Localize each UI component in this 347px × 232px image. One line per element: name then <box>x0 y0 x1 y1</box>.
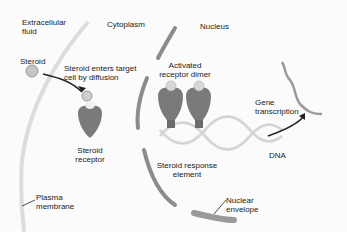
extracellular-line1: Extracellular <box>22 18 66 27</box>
envelope-line2: envelope <box>226 205 258 214</box>
steroid-molecule-icon <box>26 65 38 77</box>
receptor-line1: Steroid <box>74 146 106 155</box>
envelope-line1: Nuclear <box>226 196 258 205</box>
extracellular-line2: fluid <box>22 27 66 36</box>
response-line2: element <box>151 170 223 179</box>
dna-label: DNA <box>269 151 286 160</box>
envelope-leader-line <box>214 200 226 214</box>
gene-line1: Gene <box>255 98 299 107</box>
cytoplasm-label: Cytoplasm <box>107 20 145 29</box>
nuclear-envelope-left <box>137 78 147 128</box>
plasma-line1: Plasma <box>36 193 74 202</box>
diffusion-line1: Steroid enters target <box>64 64 136 73</box>
receptor-line2: receptor <box>74 155 106 164</box>
response-line1: Steroid response <box>151 161 223 170</box>
diagram-canvas: Extracellular fluid Cytoplasm Nucleus St… <box>0 0 347 232</box>
dimer-line2: receptor dimer <box>150 70 220 79</box>
extracellular-fluid-label: Extracellular fluid <box>22 18 66 36</box>
nucleus-label: Nucleus <box>200 22 229 31</box>
plasma-membrane-label: Plasma membrane <box>36 193 74 211</box>
diffusion-label: Steroid enters target cell by diffusion <box>64 64 136 82</box>
receptor-dimer-label: Activated receptor dimer <box>150 61 220 79</box>
steroid-inside-icon <box>82 91 92 101</box>
nuclear-envelope-top <box>158 28 175 58</box>
steroid-label: Steroid <box>20 57 45 66</box>
dna-helix-icon <box>160 117 282 150</box>
gene-line2: transcription <box>255 107 299 116</box>
nuclear-envelope-label: Nuclear envelope <box>226 196 258 214</box>
response-element-label: Steroid response element <box>151 161 223 179</box>
gene-transcription-label: Gene transcription <box>255 98 299 116</box>
steroid-receptor-label: Steroid receptor <box>74 146 106 164</box>
receptor-dimer-icon <box>158 81 211 128</box>
plasma-line2: membrane <box>36 202 74 211</box>
steroid-receptor-icon <box>78 105 102 138</box>
dimer-line1: Activated <box>150 61 220 70</box>
diffusion-line2: cell by diffusion <box>64 73 136 82</box>
plasma-leader-line <box>22 200 35 206</box>
nuclear-envelope-bottom <box>194 213 234 220</box>
